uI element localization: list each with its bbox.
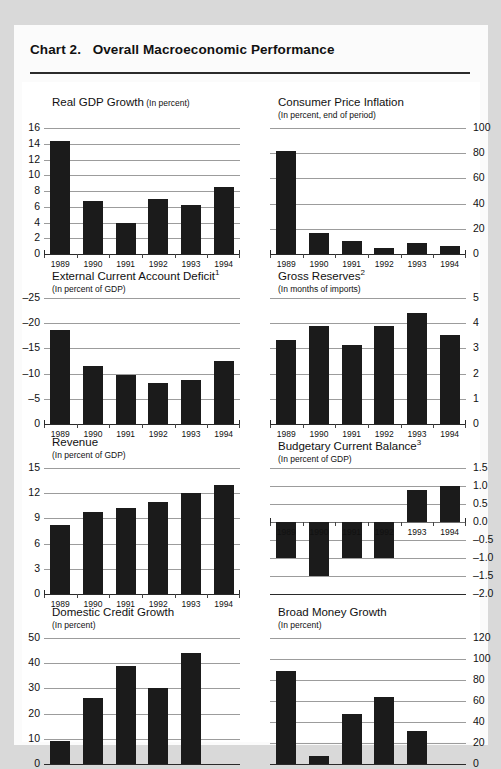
y-tick-label: 20 [473,737,501,748]
gridline [270,722,466,723]
bar [276,671,296,764]
gridline [270,638,466,639]
y-tick-label: 40 [473,716,501,727]
bar [342,714,362,764]
bar [407,731,427,764]
panel-unit: (In percent) [278,620,387,631]
panel-broad-money-growth: 020406080100120Broad Money Growth(In per… [22,82,480,742]
plot-area-broad-money-growth [270,638,466,764]
y-tick-label: 120 [473,632,501,643]
chart-card-inner: Chart 2. Overall Macroeconomic Performan… [14,25,488,745]
y-tick-label: 80 [473,674,501,685]
axis-baseline [44,764,240,765]
page-title: Chart 2. Overall Macroeconomic Performan… [30,42,335,57]
y-tick-label: 0 [473,758,501,769]
y-tick-label: 100 [473,653,501,664]
panel-title: Broad Money Growth [278,606,387,619]
y-tick-label: 60 [473,695,501,706]
axis-baseline [270,764,466,765]
chart-number: Chart 2. [30,42,81,57]
gridline [270,659,466,660]
chart-card: Chart 2. Overall Macroeconomic Performan… [14,25,488,745]
gridline [270,701,466,702]
y-tick-label: 0 [10,758,40,769]
panel-heading-broad-money-growth: Broad Money Growth(In percent) [278,606,387,631]
panels-container: 0246810121416198919901991199219931994Rea… [22,82,480,742]
title-divider [30,72,470,74]
gridline [270,743,466,744]
gridline [270,680,466,681]
bar [309,756,329,764]
bar [50,741,70,764]
bar [374,697,394,764]
chart-title-text: Overall Macroeconomic Performance [93,42,335,57]
